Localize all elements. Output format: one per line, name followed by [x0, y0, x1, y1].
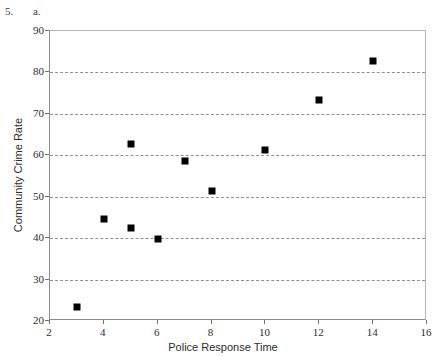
gridline-y-30 [50, 280, 425, 281]
data-point [316, 97, 323, 104]
y-tick-mark-80 [45, 71, 49, 72]
x-tick-mark-10 [264, 320, 265, 324]
x-tick-label-10: 10 [259, 326, 270, 338]
x-tick-label-2: 2 [46, 326, 52, 338]
gridline-y-50 [50, 197, 425, 198]
data-point [181, 158, 188, 165]
y-tick-mark-90 [45, 30, 49, 31]
x-tick-label-16: 16 [421, 326, 432, 338]
x-tick-label-12: 12 [313, 326, 324, 338]
x-axis-title: Police Response Time [0, 341, 446, 353]
plot-area [49, 30, 426, 320]
y-tick-mark-40 [45, 237, 49, 238]
gridline-y-60 [50, 155, 425, 156]
data-point [127, 140, 134, 147]
y-tick-label-70: 70 [22, 107, 44, 119]
data-point [208, 188, 215, 195]
y-tick-label-60: 60 [22, 148, 44, 160]
x-tick-mark-8 [211, 320, 212, 324]
x-tick-mark-16 [426, 320, 427, 324]
x-tick-mark-14 [372, 320, 373, 324]
x-tick-mark-6 [157, 320, 158, 324]
x-tick-mark-4 [103, 320, 104, 324]
data-point [73, 303, 80, 310]
x-tick-label-6: 6 [154, 326, 160, 338]
scatter-plot-figure: Community Crime Rate Police Response Tim… [0, 0, 446, 357]
data-point [154, 235, 161, 242]
x-tick-label-4: 4 [100, 326, 106, 338]
y-tick-mark-60 [45, 154, 49, 155]
x-tick-label-14: 14 [367, 326, 378, 338]
data-point [127, 225, 134, 232]
gridline-y-70 [50, 114, 425, 115]
y-tick-label-20: 20 [22, 314, 44, 326]
data-point [100, 216, 107, 223]
y-tick-label-50: 50 [22, 190, 44, 202]
y-tick-label-40: 40 [22, 231, 44, 243]
x-tick-mark-12 [318, 320, 319, 324]
y-axis-title-text: Community Crime Rate [12, 118, 24, 232]
x-tick-label-8: 8 [208, 326, 214, 338]
y-tick-mark-50 [45, 196, 49, 197]
y-tick-mark-70 [45, 113, 49, 114]
gridline-y-40 [50, 238, 425, 239]
gridline-y-80 [50, 72, 425, 73]
x-tick-mark-2 [49, 320, 50, 324]
y-tick-label-90: 90 [22, 24, 44, 36]
data-point [370, 58, 377, 65]
y-tick-label-80: 80 [22, 65, 44, 77]
y-tick-label-30: 30 [22, 273, 44, 285]
data-point [262, 146, 269, 153]
y-tick-mark-30 [45, 279, 49, 280]
